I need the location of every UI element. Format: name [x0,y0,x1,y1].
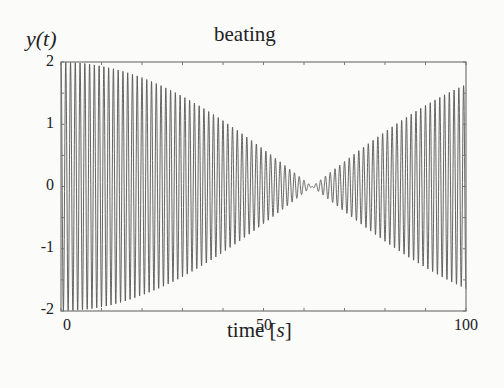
plot-area [0,0,504,388]
signal-polyline [61,62,466,311]
beating-signal-line [61,62,466,311]
